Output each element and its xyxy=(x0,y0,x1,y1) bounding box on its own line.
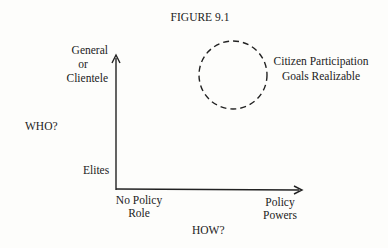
diagram-canvas xyxy=(0,0,388,248)
y-top-label-line2: or xyxy=(60,57,106,71)
figure-title: FIGURE 9.1 xyxy=(150,10,250,24)
x-right-label-line1: Policy xyxy=(254,195,306,209)
x-left-label-line2: Role xyxy=(110,206,168,220)
x-left-label-line1: No Policy xyxy=(110,193,168,207)
y-top-label-line3: Clientele xyxy=(60,71,108,85)
y-top-label-line1: General xyxy=(60,43,108,57)
x-axis-line xyxy=(116,189,299,190)
citizen-participation-region xyxy=(199,41,267,109)
y-bottom-label: Elites xyxy=(83,163,109,177)
x-right-label-line2: Powers xyxy=(254,208,306,222)
y-axis-label: WHO? xyxy=(25,119,58,133)
region-label-line2: Goals Realizable xyxy=(268,69,374,83)
x-axis-label: HOW? xyxy=(192,223,225,237)
region-label-line1: Citizen Participation xyxy=(268,54,374,68)
